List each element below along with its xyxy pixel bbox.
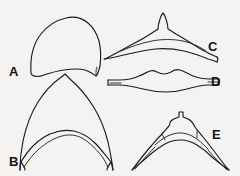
figure-b-outline — [20, 74, 113, 170]
figure-label-e: E — [212, 128, 221, 141]
plate-drawing — [0, 0, 240, 176]
figure-label-d: D — [211, 75, 221, 88]
figure-c-outline — [104, 13, 218, 62]
figure-a-outline — [31, 17, 101, 76]
figure-d-outline — [108, 70, 219, 92]
figure-label-b: B — [9, 155, 19, 168]
figure-label-a: A — [9, 65, 19, 78]
figure-label-c: C — [208, 40, 218, 53]
figure-plate: A B C D E — [0, 0, 240, 176]
